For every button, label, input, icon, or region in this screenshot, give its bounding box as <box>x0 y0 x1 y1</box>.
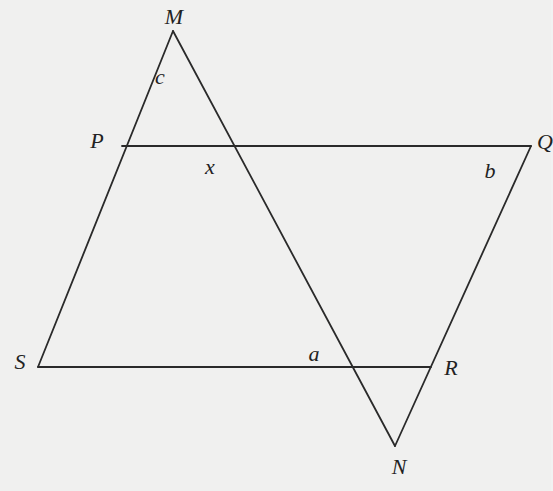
angle-label-c: c <box>155 66 165 88</box>
vertex-label-s: S <box>15 351 26 373</box>
vertex-label-m: M <box>165 6 183 28</box>
segment-mn <box>173 31 395 446</box>
vertex-label-q: Q <box>537 131 553 153</box>
segment-qn <box>395 146 531 446</box>
angle-label-b: b <box>485 160 496 182</box>
angle-label-x: x <box>205 156 215 178</box>
vertex-label-r: R <box>444 357 457 379</box>
angle-label-a: a <box>309 343 320 365</box>
segment-ms <box>38 31 173 367</box>
vertex-label-p: P <box>90 130 103 152</box>
vertex-label-n: N <box>392 456 407 478</box>
